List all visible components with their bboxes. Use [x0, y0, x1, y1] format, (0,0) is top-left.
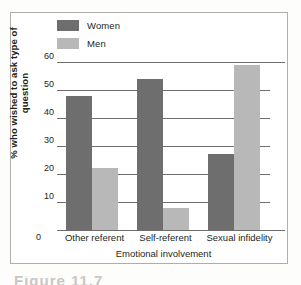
bar-women-self-referent [137, 79, 163, 230]
figure-caption-sliver: Figure 11.7 [14, 276, 174, 285]
axis-baseline-0 [57, 230, 285, 231]
x-axis-title: Emotional involvement [57, 248, 270, 259]
chart-legend: Women Men [57, 17, 177, 53]
x-tick-label-other-referent: Other referent [57, 232, 132, 243]
legend-label-women: Women [87, 20, 120, 31]
bar-group-sexual-infidelity [208, 62, 260, 230]
bar-group-other-referent [66, 62, 118, 230]
plot-area [57, 62, 270, 230]
x-axis-tick-labels: Other referent Self-referent Sexual infi… [57, 232, 285, 246]
y-tick-label: 10 [36, 191, 54, 202]
y-tick-label: 40 [36, 107, 54, 118]
y-tick-label: 20 [36, 163, 54, 174]
y-axis-title: % who wished to ask type of question [8, 8, 30, 178]
x-tick-label-sexual-infidelity: Sexual infidelity [197, 232, 282, 243]
bar-men-self-referent [163, 208, 189, 230]
figure-root: Women Men % who wished to ask type of qu… [0, 0, 301, 285]
legend-item-men: Men [57, 35, 177, 51]
bar-men-other-referent [92, 168, 118, 230]
legend-item-women: Women [57, 17, 177, 33]
legend-swatch-men [57, 38, 79, 49]
bar-women-sexual-infidelity [208, 154, 234, 230]
legend-swatch-women [57, 20, 79, 31]
bars-layer [57, 62, 270, 230]
bar-women-other-referent [66, 96, 92, 230]
legend-label-men: Men [87, 38, 106, 49]
y-tick-label: 60 [36, 51, 54, 62]
y-axis-ticks: 60 50 40 30 20 10 [33, 62, 54, 230]
y-tick-label-zero: 0 [36, 232, 41, 242]
x-tick-label-self-referent: Self-referent [128, 232, 203, 243]
y-tick-label: 30 [36, 135, 54, 146]
y-tick-label: 50 [36, 79, 54, 90]
bar-group-self-referent [137, 62, 189, 230]
bar-men-sexual-infidelity [234, 65, 260, 230]
